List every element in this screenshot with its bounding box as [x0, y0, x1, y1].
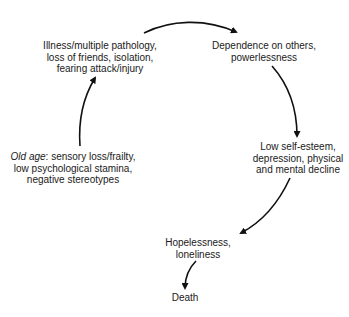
arrow-hopelessness-to-death — [185, 261, 196, 288]
node-death-line-1: Death — [172, 292, 199, 304]
arrow-dependence-to-self-esteem — [272, 66, 297, 136]
node-self-esteem-line-1: Low self-esteem, — [253, 141, 344, 153]
node-old-age-line-1: Old age: sensory loss/frailty, — [11, 151, 136, 163]
node-dependence-line-1: Dependence on others, — [212, 40, 316, 52]
node-death: Death — [172, 292, 199, 304]
old-age-label-rest: : sensory loss/frailty, — [46, 151, 136, 162]
vicious-cycle-diagram: Illness/multiple pathology, loss of frie… — [0, 0, 349, 317]
node-old-age-line-3: negative stereotypes — [11, 174, 136, 186]
node-old-age: Old age: sensory loss/frailty, low psych… — [11, 151, 136, 186]
node-illness-line-1: Illness/multiple pathology, — [43, 40, 157, 52]
node-illness: Illness/multiple pathology, loss of frie… — [43, 40, 157, 75]
arrow-old-age-to-illness — [80, 78, 95, 146]
node-self-esteem-line-2: depression, physical — [253, 153, 344, 165]
node-old-age-line-2: low psychological stamina, — [11, 163, 136, 175]
node-self-esteem: Low self-esteem, depression, physical an… — [253, 141, 344, 176]
arrow-self-esteem-to-hopelessness — [241, 178, 290, 233]
node-illness-line-3: fearing attack/injury — [43, 63, 157, 75]
old-age-label: Old age — [11, 151, 46, 162]
node-hopelessness-line-1: Hopelessness, — [165, 237, 231, 249]
node-dependence-line-2: powerlessness — [212, 52, 316, 64]
arrow-illness-to-dependence — [144, 22, 236, 33]
node-dependence: Dependence on others, powerlessness — [212, 40, 316, 63]
node-hopelessness: Hopelessness, loneliness — [165, 237, 231, 260]
node-hopelessness-line-2: loneliness — [165, 249, 231, 261]
node-self-esteem-line-3: and mental decline — [253, 164, 344, 176]
node-illness-line-2: loss of friends, isolation, — [43, 52, 157, 64]
